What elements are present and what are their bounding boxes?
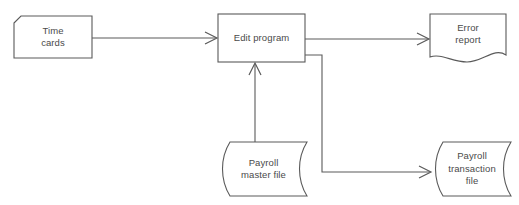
connector-edit-program-to-payroll-transaction-file[interactable] (305, 55, 430, 172)
shape-edit-program[interactable] (218, 14, 305, 62)
shape-payroll-master-file[interactable] (223, 142, 308, 196)
shape-payroll-transaction-file[interactable] (436, 142, 512, 196)
shape-time-cards[interactable] (14, 16, 92, 58)
shape-error-report[interactable] (430, 14, 506, 62)
flowchart-graphics (0, 0, 519, 205)
flowchart-canvas: Time cards Edit program Error report Pay… (0, 0, 519, 205)
